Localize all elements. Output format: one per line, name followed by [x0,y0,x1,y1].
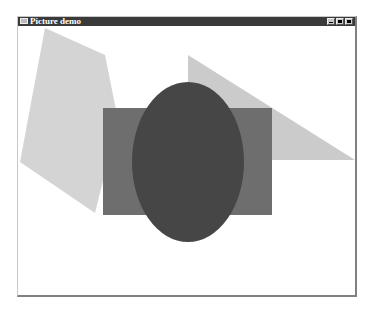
drawing-canvas [0,0,372,314]
dark-ellipse [132,82,244,242]
